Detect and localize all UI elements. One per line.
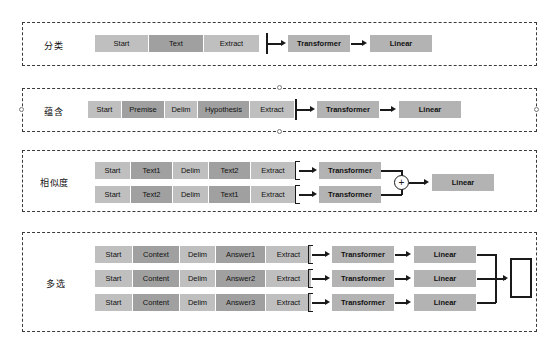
connector-line	[266, 43, 282, 45]
token-block: Text1	[131, 162, 173, 179]
task-label-multiple-choice: 多选	[46, 277, 65, 290]
linear-block: Linear	[414, 246, 476, 263]
token-block: Answer1	[216, 246, 266, 263]
connector-line	[477, 278, 506, 280]
diagram-canvas: 分类 Start Text Extract Transformer Linear…	[0, 0, 559, 356]
token-block: Start	[88, 101, 122, 118]
transformer-block: Transformer	[319, 186, 381, 203]
connector-line	[295, 109, 311, 111]
token-block: Extract	[266, 270, 311, 287]
arrow-icon	[406, 275, 411, 281]
token-block: Answer2	[216, 270, 266, 287]
token-block: Extract	[250, 101, 294, 118]
token-block: Start	[95, 294, 133, 311]
linear-block: Linear	[414, 270, 476, 287]
token-sequence: Start Context Delim Answer1 Extract	[95, 246, 311, 263]
task-label-entailment: 蕴含	[44, 105, 63, 118]
arrow-icon	[325, 275, 330, 281]
arrow-icon	[503, 275, 508, 281]
token-block: Content	[133, 294, 180, 311]
task-label-similarity: 相似度	[40, 176, 69, 189]
connector-line	[409, 182, 425, 184]
arrow-icon	[281, 40, 286, 46]
token-block: Delim	[180, 270, 216, 287]
token-block: Context	[133, 246, 180, 263]
arrow-icon	[312, 167, 317, 173]
selection-handle-top[interactable]	[277, 85, 282, 90]
token-block: Delim	[173, 162, 209, 179]
transformer-block: Transformer	[319, 162, 381, 179]
arrow-icon	[406, 251, 411, 257]
token-block: Extract	[204, 35, 259, 52]
token-block: Start	[95, 270, 133, 287]
token-block: Delim	[173, 186, 209, 203]
selection-handle-right[interactable]	[534, 107, 539, 112]
connector-line	[299, 194, 313, 196]
transformer-block: Transformer	[288, 35, 350, 52]
token-sequence: Start Text2 Delim Text1 Extract	[95, 186, 295, 203]
transformer-block: Transformer	[332, 270, 394, 287]
token-block: Text2	[209, 162, 251, 179]
token-block: Hypothesis	[198, 101, 250, 118]
arrow-icon	[391, 106, 396, 112]
token-sequence: Start Text1 Delim Text2 Extract	[95, 162, 295, 179]
linear-block: Linear	[370, 35, 432, 52]
token-block: Delim	[180, 246, 216, 263]
token-block: Delim	[165, 101, 198, 118]
sum-operator-icon: +	[394, 175, 409, 190]
connector-line	[312, 302, 326, 304]
token-block: Start	[95, 162, 131, 179]
token-block: Extract	[251, 162, 295, 179]
token-block: Start	[95, 186, 131, 203]
linear-block: Linear	[399, 101, 461, 118]
token-block: Start	[95, 35, 149, 52]
arrow-icon	[312, 191, 317, 197]
selection-handle-bottom[interactable]	[277, 129, 282, 134]
arrow-icon	[406, 299, 411, 305]
token-block: Delim	[180, 294, 216, 311]
token-block: Answer3	[216, 294, 266, 311]
connector-line	[477, 302, 496, 304]
arrow-icon	[310, 106, 315, 112]
token-block: Premise	[122, 101, 165, 118]
token-block: Text1	[209, 186, 251, 203]
token-block: Extract	[266, 294, 311, 311]
transformer-block: Transformer	[332, 294, 394, 311]
linear-block: Linear	[414, 294, 476, 311]
connector-line	[312, 254, 326, 256]
token-sequence: Start Text Extract	[95, 35, 259, 52]
token-block: Text	[149, 35, 204, 52]
arrow-icon	[362, 40, 367, 46]
linear-block: Linear	[432, 174, 494, 191]
token-block: Content	[133, 270, 180, 287]
connector-line	[381, 170, 402, 172]
transformer-block: Transformer	[317, 101, 379, 118]
connector-line	[381, 194, 402, 196]
connector-line	[299, 170, 313, 172]
token-sequence: Start Content Delim Answer3 Extract	[95, 294, 311, 311]
token-block: Extract	[251, 186, 295, 203]
connector-line	[312, 278, 326, 280]
selection-handle-left[interactable]	[19, 107, 24, 112]
output-box	[510, 258, 532, 298]
connector-line	[477, 254, 496, 256]
arrow-icon	[325, 299, 330, 305]
token-block: Text2	[131, 186, 173, 203]
token-sequence: Start Content Delim Answer2 Extract	[95, 270, 311, 287]
transformer-block: Transformer	[332, 246, 394, 263]
arrow-icon	[424, 179, 429, 185]
task-label-classification: 分类	[44, 39, 63, 52]
arrow-icon	[325, 251, 330, 257]
token-block: Start	[95, 246, 133, 263]
token-sequence: Start Premise Delim Hypothesis Extract	[88, 101, 294, 118]
token-block: Extract	[266, 246, 311, 263]
